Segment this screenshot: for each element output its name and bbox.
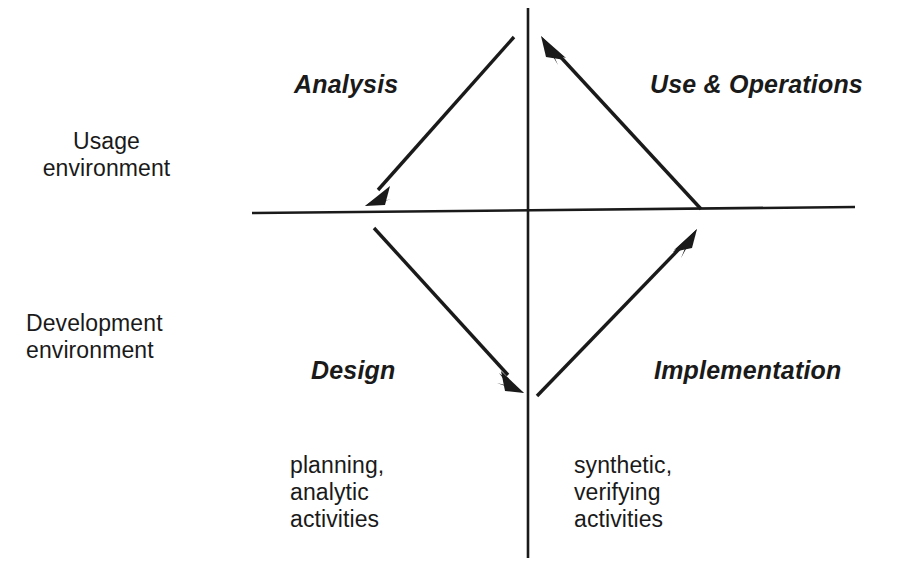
analysis-arrow — [365, 37, 514, 206]
diagram-canvas: Usage environment Development environmen… — [0, 0, 915, 580]
left-activities-label: planning, analytic activities — [290, 452, 384, 533]
phase-label-analysis: Analysis — [294, 70, 398, 100]
phase-label-design: Design — [311, 356, 396, 386]
phase-label-use-operations: Use & Operations — [650, 70, 863, 100]
phase-label-implementation: Implementation — [654, 356, 842, 386]
usage-environment-label: Usage environment — [24, 128, 189, 182]
horizontal-divider — [252, 207, 855, 213]
design-arrow — [374, 228, 524, 393]
right-activities-label: synthetic, verifying activities — [574, 452, 672, 533]
development-environment-label: Development environment — [26, 310, 163, 364]
use-operations-arrow — [541, 36, 701, 209]
